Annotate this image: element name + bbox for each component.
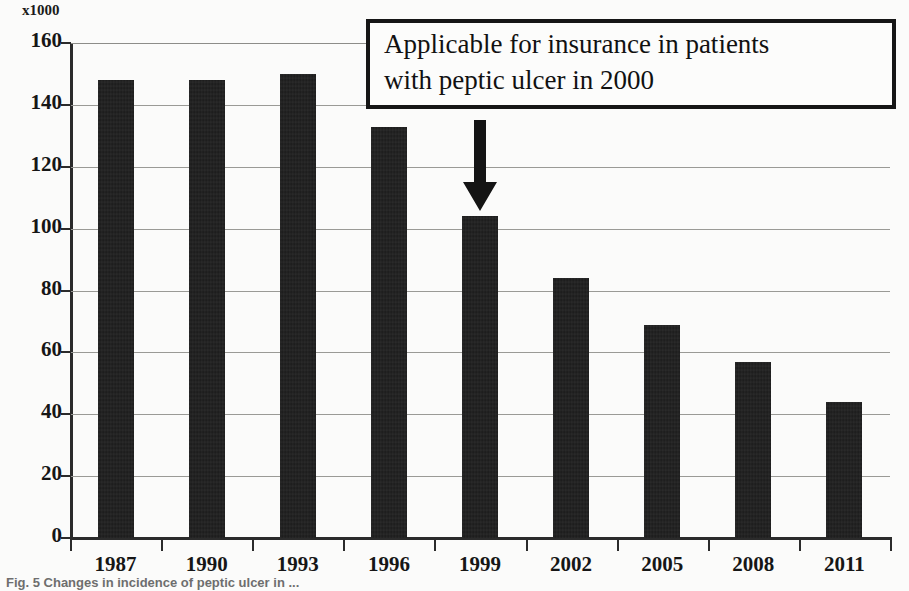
x-axis-tick [252,540,254,551]
bar [553,278,589,538]
y-axis-tick [61,42,71,44]
x-axis-tick [617,540,619,551]
x-axis-tick [434,540,436,551]
y-axis-tick-label: 40 [0,399,62,424]
y-axis-unit-label: x1000 [22,2,60,19]
y-axis-tick [61,351,71,353]
plot-area [70,43,890,538]
bar [189,80,225,538]
y-axis-tick [61,290,71,292]
annotation-line-2: with peptic ulcer in 2000 [384,63,880,99]
bar [826,402,862,538]
y-axis-tick-label: 140 [0,90,62,115]
y-axis-tick [61,537,71,539]
arrow-down-icon [462,120,498,212]
annotation-line-1: Applicable for insurance in patients [384,27,880,63]
y-axis-tick [61,228,71,230]
x-axis-tick-label: 1987 [71,552,161,577]
x-axis-tick-label: 1996 [344,552,434,577]
figure-container: x1000 020406080100120140160 198719901993… [0,0,909,591]
x-axis-tick [526,540,528,551]
y-axis-tick-label: 60 [0,337,62,362]
x-axis-tick-label: 2011 [799,552,889,577]
x-axis-tick [890,540,892,551]
x-axis-tick-label: 2005 [617,552,707,577]
bar [735,362,771,538]
bar [280,74,316,538]
y-axis-tick-label: 20 [0,461,62,486]
bar [462,216,498,538]
annotation-callout-box: Applicable for insurance in patients wit… [366,19,896,109]
y-axis-tick [61,166,71,168]
y-axis-tick-label: 160 [0,28,62,53]
y-axis-tick [61,104,71,106]
x-axis-tick [708,540,710,551]
x-axis-tick [70,540,72,551]
y-axis-tick [61,413,71,415]
bar [644,325,680,538]
x-axis-tick-label: 1999 [435,552,525,577]
y-axis-tick-label: 100 [0,214,62,239]
bar [98,80,134,538]
x-axis-tick-label: 1993 [253,552,343,577]
x-axis-tick [799,540,801,551]
x-axis-tick [343,540,345,551]
x-axis-tick-label: 1990 [162,552,252,577]
bar [371,127,407,538]
figure-caption: Fig. 5 Changes in incidence of peptic ul… [6,575,886,591]
y-axis-tick-label: 80 [0,276,62,301]
x-axis-tick [161,540,163,551]
y-axis-tick-label: 0 [0,523,62,548]
y-axis-tick [61,475,71,477]
y-axis-tick-label: 120 [0,152,62,177]
x-axis-tick-label: 2008 [708,552,798,577]
x-axis-tick-label: 2002 [526,552,616,577]
